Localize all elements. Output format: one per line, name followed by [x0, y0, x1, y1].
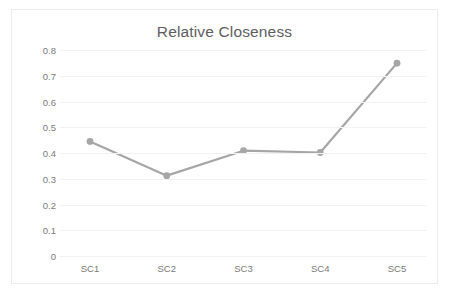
y-axis-tick-label: 0.2 — [26, 199, 56, 210]
gridline — [60, 76, 427, 77]
y-axis-tick-labels: 0.80.70.60.50.40.30.20.10 — [24, 50, 56, 256]
x-axis-tick-label: SC5 — [388, 263, 406, 274]
data-line — [90, 63, 397, 176]
gridline — [60, 50, 427, 51]
y-axis-tick-label: 0.1 — [26, 225, 56, 236]
x-axis-tick-label: SC1 — [81, 263, 99, 274]
y-axis-tick-label: 0.7 — [26, 70, 56, 81]
chart-title: Relative Closeness — [12, 23, 437, 41]
x-axis-tick-label: SC2 — [158, 263, 176, 274]
gridline — [60, 205, 427, 206]
x-axis-tick-labels: SC1SC2SC3SC4SC5 — [60, 263, 427, 277]
gridline — [60, 256, 427, 257]
y-axis-tick-label: 0.3 — [26, 173, 56, 184]
y-axis-tick-label: 0.8 — [26, 45, 56, 56]
data-point-marker — [87, 138, 94, 145]
y-axis-tick-label: 0.6 — [26, 96, 56, 107]
gridline — [60, 230, 427, 231]
y-axis-tick-label: 0.5 — [26, 122, 56, 133]
plot-area — [60, 50, 427, 256]
gridline — [60, 153, 427, 154]
y-axis-tick-label: 0.4 — [26, 148, 56, 159]
x-axis-tick-label: SC4 — [311, 263, 329, 274]
gridline — [60, 102, 427, 103]
y-axis-tick-label: 0 — [26, 251, 56, 262]
x-axis-tick-label: SC3 — [234, 263, 252, 274]
gridline — [60, 179, 427, 180]
data-point-marker — [394, 60, 401, 67]
gridline — [60, 127, 427, 128]
chart-container: Relative Closeness 0.80.70.60.50.40.30.2… — [11, 9, 438, 284]
